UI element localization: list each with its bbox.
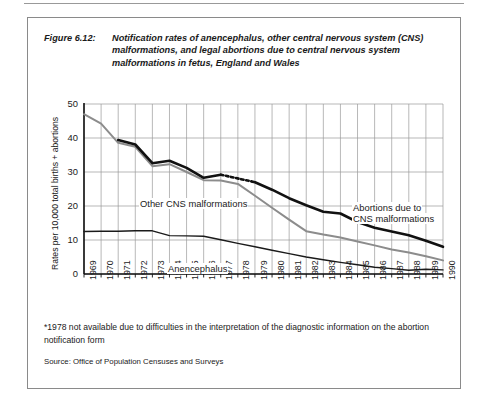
x-tick-label: 1970 xyxy=(105,260,115,280)
x-tick-label: 1983 xyxy=(327,260,337,280)
figure-box: Figure 6.12: Notification rates of anenc… xyxy=(27,17,461,389)
other-cns-label: Other CNS malformations xyxy=(139,198,248,209)
top-rule xyxy=(24,3,464,4)
y-axis-title-text: Rates per 10,000 total births + abortion… xyxy=(50,117,60,270)
anencephalus-label: Anencephalus xyxy=(167,263,228,274)
x-tick-label: 1980 xyxy=(276,260,286,280)
x-tick-label: 1978 xyxy=(241,260,251,280)
x-tick-label: 1973 xyxy=(156,260,166,280)
y-tick-label: 50 xyxy=(54,98,78,109)
x-tick-label: 1989 xyxy=(430,260,440,280)
x-tick-label: 1979 xyxy=(259,260,269,280)
x-tick-label: 1990 xyxy=(447,260,457,280)
x-tick-label: 1984 xyxy=(344,260,354,280)
x-tick-label: 1969 xyxy=(88,260,98,280)
x-tick-label: 1971 xyxy=(122,260,132,280)
x-tick-label: 1982 xyxy=(310,260,320,280)
x-tick-label: 1972 xyxy=(139,260,149,280)
figure-footnote: *1978 not available due to difficulties … xyxy=(44,321,442,346)
x-tick-label: 1986 xyxy=(378,260,388,280)
data-series xyxy=(84,114,443,270)
x-tick-label: 1985 xyxy=(361,260,371,280)
x-tick-label: 1987 xyxy=(395,260,405,280)
abortions-label: Abortions due to xyxy=(352,202,422,213)
x-tick-label: 1988 xyxy=(412,260,422,280)
x-tick-label: 1981 xyxy=(293,260,303,280)
axes xyxy=(84,103,443,278)
abortions-label-2: CNS malformations xyxy=(352,213,435,224)
figure-source: Source: Office of Population Censuses an… xyxy=(44,357,442,366)
